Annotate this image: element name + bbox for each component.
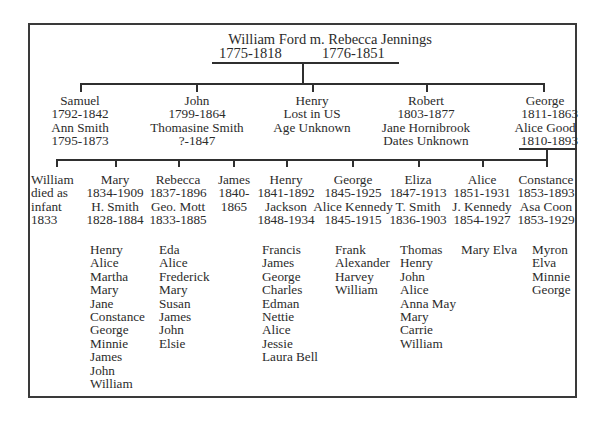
drop-james — [233, 159, 235, 167]
name: Mary — [82, 173, 148, 186]
child: Anna May — [400, 297, 456, 310]
child: Elsie — [159, 337, 210, 350]
dates: 1845-1925 — [313, 186, 393, 199]
name: John — [137, 94, 257, 107]
spouse: J. Kennedy — [449, 200, 515, 213]
person-constance: Constance 1853-1893 Asa Coon 1853-1929 — [513, 173, 579, 227]
drop-john — [196, 83, 198, 92]
spouse: Thomasine Smith — [137, 121, 257, 134]
name: William — [31, 173, 74, 186]
name: Alice — [449, 173, 515, 186]
root-descent-line — [302, 62, 304, 83]
drop-rebecca — [178, 159, 180, 167]
drop-alice — [482, 159, 484, 167]
children-of-constance: Myron Elva Minnie George — [532, 243, 571, 297]
root-underline — [212, 62, 399, 64]
name: Rebecca — [145, 173, 211, 186]
dates: 1792-1842 — [30, 107, 130, 120]
drop-mary — [115, 159, 117, 167]
person-john: John 1799-1864 Thomasine Smith ?-1847 — [137, 94, 257, 148]
drop-george-2 — [352, 159, 354, 167]
drop-george — [543, 83, 545, 92]
name: George — [313, 173, 393, 186]
child: Jane — [90, 297, 145, 310]
spouse: Alice Good — [512, 121, 578, 134]
child: Henry — [90, 243, 145, 256]
child: Mary — [159, 283, 210, 296]
george-underline — [519, 148, 577, 150]
note-age: Age Unknown — [262, 121, 362, 134]
child: John — [159, 323, 210, 336]
spouse-dates: 1853-1929 — [513, 213, 579, 226]
child: James — [262, 256, 318, 269]
child: Mary Elva — [461, 243, 517, 256]
person-george: George 1811-1863 Alice Good 1810-1893 — [512, 94, 578, 148]
person-robert: Robert 1803-1877 Jane Hornibrook Dates U… — [371, 94, 481, 148]
child: Elva — [532, 256, 571, 269]
name: James — [213, 173, 255, 186]
spouse-dates: 1854-1927 — [449, 213, 515, 226]
child: Mary — [90, 283, 145, 296]
note: died as — [31, 186, 74, 199]
name: George — [512, 94, 578, 107]
child: Minnie — [90, 337, 145, 350]
child: George — [532, 283, 571, 296]
dates: 1841-1892 — [253, 186, 319, 199]
child: John — [400, 270, 456, 283]
spouse: Alice Kennedy — [313, 200, 393, 213]
spouse: H. Smith — [82, 200, 148, 213]
note: infant — [31, 200, 74, 213]
spouse: Geo. Mott — [145, 200, 211, 213]
spouse-dates: 1845-1915 — [313, 213, 393, 226]
child: Laura Bell — [262, 350, 318, 363]
child: Edman — [262, 297, 318, 310]
spouse: Jane Hornibrook — [371, 121, 481, 134]
name: Robert — [371, 94, 481, 107]
spouse-dates: 1833-1885 — [145, 213, 211, 226]
children-of-alice: Mary Elva — [461, 243, 517, 256]
drop-henry — [312, 83, 314, 92]
spouse-dates: Dates Unknown — [371, 134, 481, 147]
spouse-dates: 1810-1893 — [512, 134, 578, 147]
person-william: William died as infant 1833 — [31, 173, 74, 227]
drop-constance — [546, 159, 548, 167]
child: Alice — [400, 283, 456, 296]
child: John — [90, 364, 145, 377]
child: Alexander — [335, 256, 390, 269]
child: Jessie — [262, 337, 318, 350]
drop-henry-2 — [286, 159, 288, 167]
child: William — [400, 337, 456, 350]
child: Thomas — [400, 243, 456, 256]
child: James — [159, 310, 210, 323]
year: 1833 — [31, 213, 74, 226]
child: James — [90, 350, 145, 363]
dates-cont: 1865 — [213, 200, 255, 213]
dates: 1811-1863 — [512, 107, 578, 120]
husband-dates: 1775-1818 — [219, 46, 282, 61]
child: Constance — [90, 310, 145, 323]
dates: 1847-1913 — [385, 186, 451, 199]
name: Henry — [253, 173, 319, 186]
child: Frank — [335, 243, 390, 256]
spouse-dates: 1848-1934 — [253, 213, 319, 226]
name: Constance — [513, 173, 579, 186]
drop-eliza — [418, 159, 420, 167]
spouse: T. Smith — [385, 200, 451, 213]
dates: 1799-1864 — [137, 107, 257, 120]
spouse: Jackson — [253, 200, 319, 213]
spouse-dates: ?-1847 — [137, 134, 257, 147]
child: Charles — [262, 283, 318, 296]
child: Myron — [532, 243, 571, 256]
person-james: James 1840- 1865 — [213, 173, 255, 213]
child: Eda — [159, 243, 210, 256]
wife-dates: 1776-1851 — [322, 46, 385, 61]
child: Minnie — [532, 270, 571, 283]
name: Samuel — [30, 94, 130, 107]
note: Lost in US — [262, 107, 362, 120]
person-henry-jackson: Henry 1841-1892 Jackson 1848-1934 — [253, 173, 319, 227]
child: Frederick — [159, 270, 210, 283]
child: Henry — [400, 256, 456, 269]
child: George — [90, 323, 145, 336]
children-of-eliza: Thomas Henry John Alice Anna May Mary Ca… — [400, 243, 456, 350]
person-henry: Henry Lost in US Age Unknown — [262, 94, 362, 134]
